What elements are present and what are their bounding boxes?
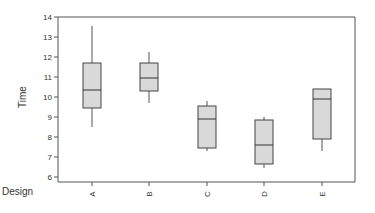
y-tick-label: 12	[43, 53, 52, 62]
iqr-box	[255, 120, 273, 164]
box-e	[313, 89, 331, 151]
box-series	[83, 26, 331, 168]
x-axis: ABCDE	[88, 182, 327, 197]
y-tick-label: 8	[48, 133, 53, 142]
y-tick-label: 13	[43, 33, 52, 42]
box-plot-chart: 67891011121314 ABCDE Time Design	[0, 0, 375, 213]
y-tick-label: 9	[48, 113, 53, 122]
x-axis-title: Design	[2, 186, 33, 197]
iqr-box	[83, 63, 101, 108]
y-axis-title: Time	[17, 86, 28, 108]
box-a	[83, 26, 101, 127]
box-c	[198, 101, 216, 151]
box-d	[255, 117, 273, 168]
x-tick-label: E	[318, 191, 327, 196]
iqr-box	[313, 89, 331, 139]
box-b	[140, 52, 158, 103]
y-axis: 67891011121314	[43, 13, 58, 182]
y-tick-label: 6	[48, 173, 53, 182]
y-tick-label: 11	[44, 73, 53, 82]
x-tick-label: B	[145, 191, 154, 196]
y-tick-label: 7	[48, 153, 53, 162]
y-tick-label: 14	[43, 13, 52, 22]
x-tick-label: C	[203, 191, 212, 197]
iqr-box	[140, 63, 158, 91]
x-tick-label: A	[88, 191, 97, 197]
iqr-box	[198, 106, 216, 148]
plot-frame	[58, 17, 355, 182]
x-tick-label: D	[260, 191, 269, 197]
y-tick-label: 10	[43, 93, 52, 102]
